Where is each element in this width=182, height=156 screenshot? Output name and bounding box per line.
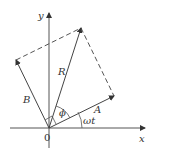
vector-R-label: R [57,66,66,77]
phasor-diagram: y x 0 A B R ϕ ωt [0,0,182,156]
vector-B [16,60,49,128]
angle-phi-label: ϕ [59,107,66,118]
origin-label: 0 [44,132,50,143]
dashed-line-R-to-A [81,28,114,96]
angle-omega-t-label: ωt [83,115,96,126]
vector-A-label: A [93,104,101,115]
y-axis-label: y [37,10,44,21]
angle-arc-omega-t [78,112,82,128]
vector-B-label: B [22,94,30,105]
x-axis-label: x [139,133,145,144]
diagram-canvas: y x 0 A B R ϕ ωt [0,0,182,156]
